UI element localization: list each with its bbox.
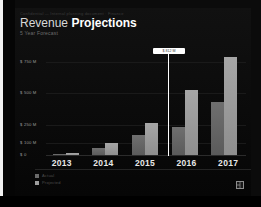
y-axis-tick-label: $ 0 (20, 152, 26, 158)
y-axis-tick-label: $ 500 M (20, 90, 37, 96)
screenshot-root: Confidential — Internal planning documen… (0, 0, 261, 207)
company-logo-icon (236, 181, 244, 189)
bar[interactable] (224, 57, 237, 156)
x-axis-tick-label: 2017 (218, 158, 238, 168)
x-axis-tick-label: 2015 (135, 158, 155, 168)
chart-plot-area: $ 750 M$ 500 M$ 250 M$ 100 M$ 0 $ 812 M (20, 41, 246, 156)
legend-item[interactable]: Actual (35, 172, 61, 179)
legend-swatch-series-1 (35, 174, 39, 178)
legend-divider (35, 169, 251, 170)
legend-item[interactable]: Projected (35, 179, 61, 186)
bar[interactable] (185, 90, 198, 156)
bar[interactable] (145, 123, 158, 156)
legend-swatch-series-2 (35, 181, 39, 185)
bar-group (172, 52, 198, 156)
bar[interactable] (132, 135, 145, 156)
y-axis-tick-label: $ 750 M (20, 59, 37, 65)
x-axis-tick-label: 2013 (52, 158, 72, 168)
bar-group (132, 52, 158, 156)
bar-group (53, 52, 79, 156)
chart-legend: ActualProjected (35, 172, 61, 186)
bottom-black-strip (0, 196, 261, 207)
title-bold: Projections (71, 16, 136, 30)
bar[interactable] (211, 102, 224, 156)
page-subtitle: 5 Year Forecast (20, 30, 58, 37)
axis-baseline (46, 155, 246, 156)
bar-group (92, 52, 118, 156)
y-axis-tick-label: $ 100 M (20, 140, 37, 146)
bar[interactable] (172, 127, 185, 156)
y-axis-tick-label: $ 250 M (20, 122, 37, 128)
chart-slide: Confidential — Internal planning documen… (15, 8, 251, 196)
bar-group (211, 52, 237, 156)
tooltip-stem (168, 54, 169, 156)
page-title: Revenue Projections (20, 17, 137, 30)
legend-label: Projected (42, 179, 61, 186)
x-axis-tick-label: 2016 (177, 158, 197, 168)
legend-label: Actual (42, 172, 54, 179)
bar-groups (46, 52, 244, 156)
window-gutter (3, 0, 15, 207)
title-plain: Revenue (20, 16, 71, 30)
x-axis-tick-label: 2014 (93, 158, 113, 168)
x-axis-labels: 20132014201520162017 (41, 157, 249, 169)
